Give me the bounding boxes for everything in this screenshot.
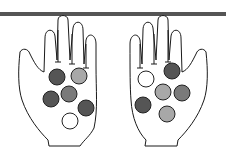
- hanging-bar: [0, 12, 226, 16]
- counter-light: [155, 84, 171, 100]
- counter-dark: [78, 100, 94, 116]
- left-hand: [19, 16, 97, 147]
- right-hand: [130, 16, 207, 147]
- counter-white: [62, 113, 78, 129]
- counter-white: [138, 71, 154, 87]
- counter-dark: [43, 91, 59, 107]
- counter-dark: [164, 63, 180, 79]
- counter-dark: [49, 69, 65, 85]
- counter-light: [71, 68, 87, 84]
- hands-illustration: [0, 0, 226, 159]
- counter-medium: [61, 86, 77, 102]
- counter-medium: [174, 85, 190, 101]
- counter-dark: [135, 97, 151, 113]
- counter-light: [159, 106, 175, 122]
